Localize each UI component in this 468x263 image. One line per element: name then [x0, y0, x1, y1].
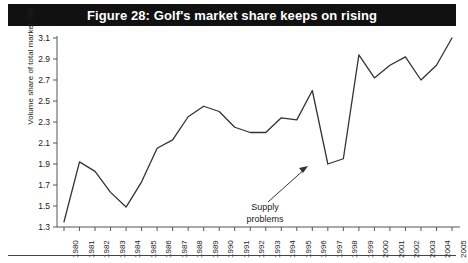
x-tick-label: 1980 [71, 226, 80, 258]
x-tick-label: 1997 [335, 226, 344, 258]
figure-title-bar: Figure 28: Golf's market share keeps on … [8, 4, 456, 26]
x-tick-label: 2004 [443, 226, 452, 258]
x-tick-label: 1994 [288, 226, 297, 258]
y-tick-label: 2.9 [38, 54, 50, 64]
page-title: Figure 28: Golf's market share keeps on … [87, 8, 377, 23]
y-tick-label: 2.5 [38, 96, 50, 106]
x-tick-label: 1991 [242, 226, 251, 258]
x-tick-label: 2005 [459, 226, 468, 258]
y-tick-label: 1.5 [38, 201, 50, 211]
y-tick-label: 2.1 [38, 138, 50, 148]
x-tick-label: 1985 [149, 226, 158, 258]
x-tick-label: 1990 [226, 226, 235, 258]
annotation-arrow-line [268, 168, 306, 202]
x-tick-label: 1998 [350, 226, 359, 258]
x-tick-label: 2003 [428, 226, 437, 258]
x-tick-label: 1982 [102, 226, 111, 258]
annotation-line-2: problems [246, 214, 284, 224]
y-tick-label: 2.7 [38, 75, 50, 85]
data-series-line [64, 38, 452, 222]
x-tick-label: 2000 [381, 226, 390, 258]
x-tick-label: 1986 [164, 226, 173, 258]
x-tick-label: 1995 [304, 226, 313, 258]
x-tick-label: 1989 [211, 226, 220, 258]
footer-divider [8, 255, 456, 256]
x-tick-label: 1999 [366, 226, 375, 258]
annotation-line-1: Supply [251, 202, 279, 212]
y-tick-label: 1.9 [38, 159, 50, 169]
y-tick-label: 1.7 [38, 180, 50, 190]
x-tick-label: 1992 [257, 226, 266, 258]
x-tick-label: 1996 [319, 226, 328, 258]
x-tick-label: 2002 [412, 226, 421, 258]
x-tick-label: 1981 [87, 226, 96, 258]
x-tick-label: 1984 [133, 226, 142, 258]
supply-problems-annotation: Supply problems [246, 166, 308, 224]
y-axis-ticks: 1.31.51.71.92.12.32.52.72.93.1 [38, 33, 57, 232]
x-tick-label: 1983 [118, 226, 127, 258]
annotation-arrow-head [299, 166, 308, 173]
x-tick-label: 1987 [180, 226, 189, 258]
line-chart-plot: 1.31.51.71.92.12.32.52.72.93.1 Supply pr… [0, 26, 464, 236]
y-tick-label: 2.3 [38, 117, 50, 127]
x-tick-label: 2001 [397, 226, 406, 258]
x-tick-label: 1993 [273, 226, 282, 258]
y-tick-label: 3.1 [38, 33, 50, 43]
x-tick-label: 1988 [195, 226, 204, 258]
